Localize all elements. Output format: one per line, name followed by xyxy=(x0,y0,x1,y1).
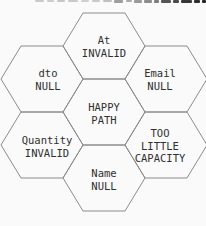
cropped-glyph-mark xyxy=(161,0,171,3)
cropped-glyph-mark xyxy=(126,0,132,2)
cropped-glyph-mark xyxy=(134,0,142,3)
hexagon-test-map-figure: At INVALID dto NULL Email NULL HAPPY PAT… xyxy=(0,0,206,226)
cropped-glyph-mark xyxy=(57,0,65,2)
cropped-glyph-mark xyxy=(47,0,54,2)
cropped-glyph-mark xyxy=(92,0,100,2)
cropped-glyph-mark xyxy=(202,0,206,3)
cropped-glyph-mark xyxy=(35,0,44,2)
cropped-glyph-mark xyxy=(194,0,200,3)
cropped-caption-fragment xyxy=(0,0,206,4)
cropped-glyph-mark xyxy=(181,0,192,3)
cropped-glyph-mark xyxy=(68,0,78,2)
cropped-glyph-mark xyxy=(103,0,112,2)
cropped-glyph-mark xyxy=(114,0,123,3)
cropped-glyph-mark xyxy=(173,0,179,3)
hexagon-label-name-null: Name NULL xyxy=(63,147,145,213)
cropped-glyph-mark xyxy=(81,0,89,2)
cropped-glyph-mark xyxy=(144,0,152,3)
cropped-glyph-mark xyxy=(154,0,159,3)
